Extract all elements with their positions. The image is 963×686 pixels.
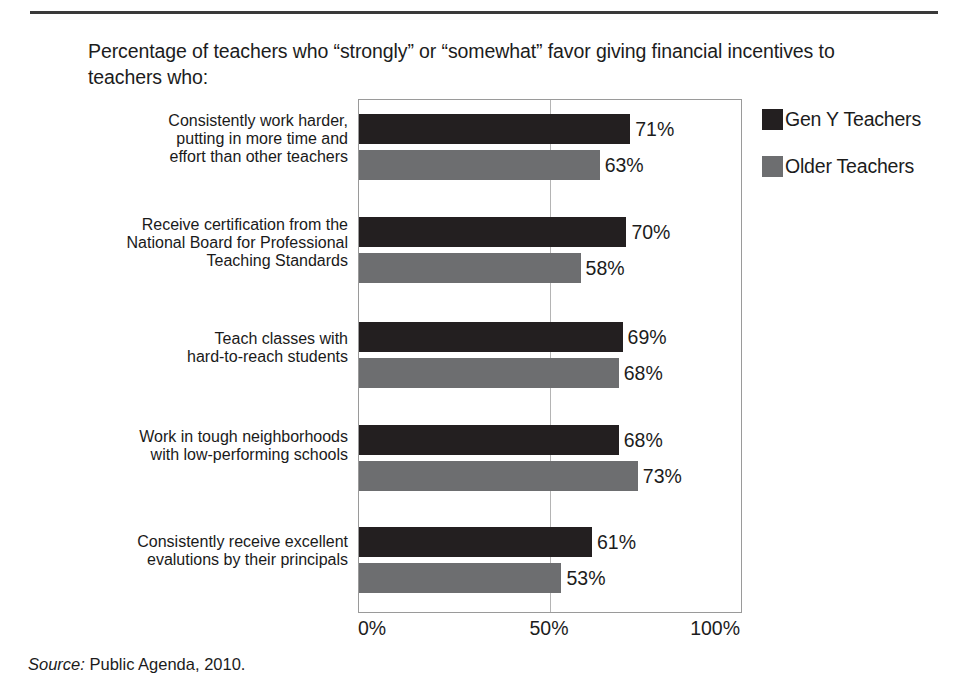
bar-value-label: 58% bbox=[586, 257, 625, 280]
bar-row: 69% bbox=[359, 322, 741, 352]
bar-row: 71% bbox=[359, 114, 741, 144]
bar-row: 70% bbox=[359, 217, 741, 247]
bar-group: 70%58% bbox=[359, 217, 741, 283]
bar-gen-y[interactable]: 68% bbox=[359, 425, 619, 455]
legend-swatch-older-icon bbox=[762, 156, 783, 177]
bar-group: 71%63% bbox=[359, 114, 741, 180]
category-label-line: Teach classes with bbox=[60, 330, 348, 348]
legend-item[interactable]: Older Teachers bbox=[762, 155, 921, 178]
bar-row: 68% bbox=[359, 425, 741, 455]
bar-value-label: 68% bbox=[624, 429, 663, 452]
top-divider-rule bbox=[30, 11, 938, 14]
chart-plot-area: 71%63%70%58%69%68%68%73%61%53% bbox=[358, 99, 742, 613]
x-axis-tick-0: 0% bbox=[358, 617, 386, 640]
category-label: Work in tough neighborhoodswith low-perf… bbox=[60, 428, 348, 464]
category-label-line: evalutions by their principals bbox=[60, 551, 348, 569]
bar-row: 68% bbox=[359, 358, 741, 388]
bar-value-label: 73% bbox=[643, 465, 682, 488]
legend-swatch-gen-y-icon bbox=[762, 109, 783, 130]
category-label: Consistently receive excellentevalutions… bbox=[60, 533, 348, 569]
category-label-line: National Board for Professional bbox=[60, 234, 348, 252]
bar-row: 58% bbox=[359, 253, 741, 283]
legend-label: Older Teachers bbox=[785, 155, 914, 178]
bar-value-label: 61% bbox=[597, 531, 636, 554]
source-note: Source: Public Agenda, 2010. bbox=[28, 655, 245, 674]
x-axis-tick-100: 100% bbox=[690, 617, 740, 640]
bar-group: 68%73% bbox=[359, 425, 741, 491]
category-label-line: with low-performing schools bbox=[60, 446, 348, 464]
category-label-line: Consistently receive excellent bbox=[60, 533, 348, 551]
bar-row: 73% bbox=[359, 461, 741, 491]
bar-gen-y[interactable]: 70% bbox=[359, 217, 626, 247]
bar-value-label: 71% bbox=[635, 118, 674, 141]
category-label: Teach classes withhard-to-reach students bbox=[60, 330, 348, 366]
bar-value-label: 70% bbox=[631, 221, 670, 244]
chart-legend: Gen Y TeachersOlder Teachers bbox=[762, 108, 921, 202]
bar-gen-y[interactable]: 69% bbox=[359, 322, 623, 352]
source-label: Source: bbox=[28, 655, 85, 673]
bar-value-label: 63% bbox=[605, 154, 644, 177]
bar-older[interactable]: 73% bbox=[359, 461, 638, 491]
bar-older[interactable]: 68% bbox=[359, 358, 619, 388]
category-label-line: Consistently work harder, bbox=[60, 112, 348, 130]
category-label-line: hard-to-reach students bbox=[60, 348, 348, 366]
bar-value-label: 68% bbox=[624, 362, 663, 385]
bar-row: 53% bbox=[359, 563, 741, 593]
category-label-line: Receive certification from the bbox=[60, 216, 348, 234]
category-label: Receive certification from theNational B… bbox=[60, 216, 348, 270]
legend-label: Gen Y Teachers bbox=[785, 108, 921, 131]
bar-gen-y[interactable]: 61% bbox=[359, 527, 592, 557]
source-text: Public Agenda, 2010. bbox=[85, 655, 246, 673]
category-label-line: effort than other teachers bbox=[60, 148, 348, 166]
category-label-line: Work in tough neighborhoods bbox=[60, 428, 348, 446]
x-axis-tick-50: 50% bbox=[529, 617, 568, 640]
bar-value-label: 69% bbox=[628, 326, 667, 349]
category-label-line: putting in more time and bbox=[60, 130, 348, 148]
bar-group: 69%68% bbox=[359, 322, 741, 388]
bar-gen-y[interactable]: 71% bbox=[359, 114, 630, 144]
legend-item[interactable]: Gen Y Teachers bbox=[762, 108, 921, 131]
bar-older[interactable]: 53% bbox=[359, 563, 561, 593]
bar-row: 63% bbox=[359, 150, 741, 180]
bar-older[interactable]: 58% bbox=[359, 253, 581, 283]
bar-value-label: 53% bbox=[566, 567, 605, 590]
bar-group: 61%53% bbox=[359, 527, 741, 593]
figure-title: Percentage of teachers who “strongly” or… bbox=[88, 38, 858, 90]
category-label: Consistently work harder,putting in more… bbox=[60, 112, 348, 166]
category-label-line: Teaching Standards bbox=[60, 252, 348, 270]
bar-older[interactable]: 63% bbox=[359, 150, 600, 180]
bar-row: 61% bbox=[359, 527, 741, 557]
